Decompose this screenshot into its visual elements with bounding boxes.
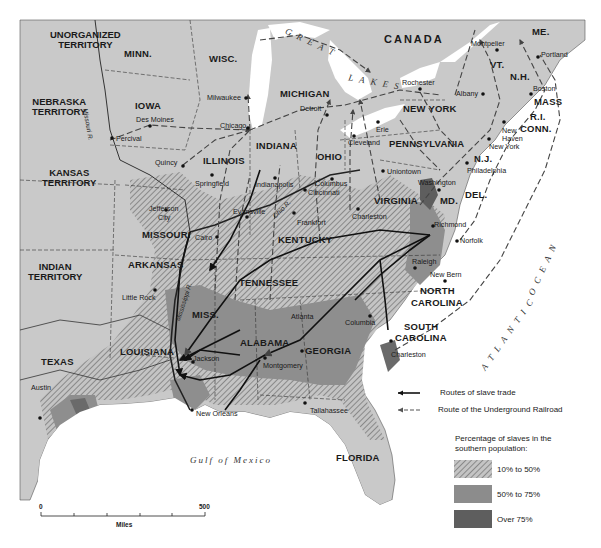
legend-item-label: 10% to 50%: [497, 466, 540, 474]
label-iowa: IOWA: [135, 101, 161, 111]
legend-title: Percentage of slaves in the southern pop…: [455, 434, 552, 455]
label-philadelphia: Philadelphia: [467, 167, 506, 174]
label-austin: Austin: [31, 384, 51, 391]
label-conn: CONN.: [520, 124, 552, 134]
label-little-rock: Little Rock: [122, 294, 156, 301]
legend-slave-trade: Routes of slave trade: [440, 389, 516, 397]
label-montpelier: Montpelier: [471, 40, 505, 47]
label-columbia: Columbia: [345, 319, 375, 326]
legend-item-label: Over 75%: [497, 516, 533, 524]
label-pennsylvania: PENNSYLVANIA: [389, 139, 464, 149]
label-new-orleans: New Orleans: [196, 410, 238, 417]
label-kentucky: KENTUCKY: [278, 235, 332, 245]
legend-underground-railroad: Route of the Underground Railroad: [438, 406, 563, 414]
scale-end: 500: [199, 504, 210, 511]
label-des-moines: Des Moines: [136, 116, 174, 123]
label-mass: MASS: [534, 97, 562, 107]
label-louisiana: LOUISIANA: [120, 347, 174, 357]
label-south-carolina-1: SOUTH: [404, 322, 438, 332]
label-north-carolina-2: CAROLINA: [411, 298, 463, 308]
label-rochester: Rochester: [402, 79, 435, 86]
label-texas: TEXAS: [41, 357, 74, 367]
label-kansas-territory: KANSAS TERRITORY: [42, 168, 96, 188]
label-new-bern: New Bern: [430, 271, 462, 278]
label-indian-territory: INDIAN TERRITORY: [28, 262, 82, 282]
label-washington: Washington: [418, 179, 456, 186]
label-new-york: NEW YORK: [403, 104, 457, 114]
legend-swatch-over-75: [454, 510, 492, 528]
label-jackson: Jackson: [193, 355, 219, 362]
label-wisc: WISC.: [209, 54, 237, 64]
label-minn: MINN.: [124, 49, 152, 59]
label-north-carolina-1: NORTH: [420, 286, 455, 296]
label-tallahassee: Tallahassee: [310, 407, 348, 414]
label-raleigh: Raleigh: [412, 258, 436, 265]
label-del: DEL.: [465, 190, 487, 200]
label-ohio: OHIO: [317, 152, 342, 162]
label-chicago: Chicago: [220, 122, 246, 129]
label-nebraska-territory: NEBRASKA TERRITORY: [32, 97, 86, 117]
label-montgomery: Montgomery: [263, 362, 303, 369]
label-columbus: Columbus: [315, 180, 347, 187]
legend-swatch-10-50: [454, 460, 492, 478]
label-arkansas: ARKANSAS: [128, 260, 183, 270]
label-indiana: INDIANA: [256, 141, 297, 151]
label-evansville: Evansville: [233, 208, 265, 215]
label-cincinnati: Cincinnati: [308, 189, 340, 196]
label-springfield: Springfield: [195, 180, 229, 187]
label-detroit: Detroit: [300, 105, 321, 112]
label-georgia: GEORGIA: [305, 346, 351, 356]
scale-unit: Miles: [116, 522, 132, 529]
label-portland: Portland: [541, 51, 568, 58]
label-me: ME.: [532, 27, 550, 37]
legend-swatch-50-75: [454, 485, 492, 503]
label-miss: MISS.: [192, 310, 219, 320]
label-missouri: MISSOURI: [142, 230, 191, 240]
label-florida: FLORIDA: [336, 453, 380, 463]
label-erie: Erie: [376, 126, 389, 133]
legend-lines: [398, 391, 420, 413]
label-richmond: Richmond: [434, 221, 466, 228]
label-south-carolina-2: CAROLINA: [395, 333, 447, 343]
label-illinois: ILLINOIS: [203, 156, 245, 166]
label-jefferson-city-2: City: [158, 214, 170, 221]
label-atlanta: Atlanta: [291, 313, 313, 320]
legend-item-label: 50% to 75%: [497, 491, 540, 499]
label-frankfort: Frankfort: [297, 219, 326, 226]
label-milwaukee: Milwaukee: [207, 94, 241, 101]
label-uniontown: Uniontown: [387, 168, 421, 175]
label-jefferson-city-1: Jefferson: [149, 205, 178, 212]
label-vt: VT.: [490, 60, 504, 70]
label-boston: Boston: [533, 85, 555, 92]
label-nh: N.H.: [510, 72, 530, 82]
label-nj: N.J.: [474, 154, 492, 164]
label-charleston-sc: Charleston: [391, 351, 426, 358]
label-cleveland: Cleveland: [348, 139, 380, 146]
label-quincy: Quincy: [155, 159, 177, 166]
label-michigan: MICHIGAN: [280, 89, 330, 99]
label-tennessee: TENNESSEE: [239, 278, 298, 288]
label-percival: Percival: [116, 135, 142, 142]
label-ri: R.I.: [530, 112, 546, 122]
label-albany: Albany: [456, 90, 478, 97]
label-new-york-city: New York: [489, 143, 519, 150]
label-canada: CANADA: [384, 34, 444, 45]
label-unorganized-territory: UNORGANIZED TERRITORY: [50, 30, 121, 50]
label-alabama: ALABAMA: [240, 338, 289, 348]
label-charleston-wv: Charleston: [352, 213, 387, 220]
label-virginia: VIRGINIA: [374, 196, 418, 206]
label-md: MD.: [440, 196, 458, 206]
label-gulf-of-mexico: Gulf of Mexico: [190, 456, 272, 465]
label-cairo: Cairo: [195, 234, 212, 241]
label-indianapolis: Indianapolis: [255, 181, 293, 188]
label-norfolk: Norfolk: [460, 237, 483, 244]
scale-start: 0: [39, 504, 43, 511]
